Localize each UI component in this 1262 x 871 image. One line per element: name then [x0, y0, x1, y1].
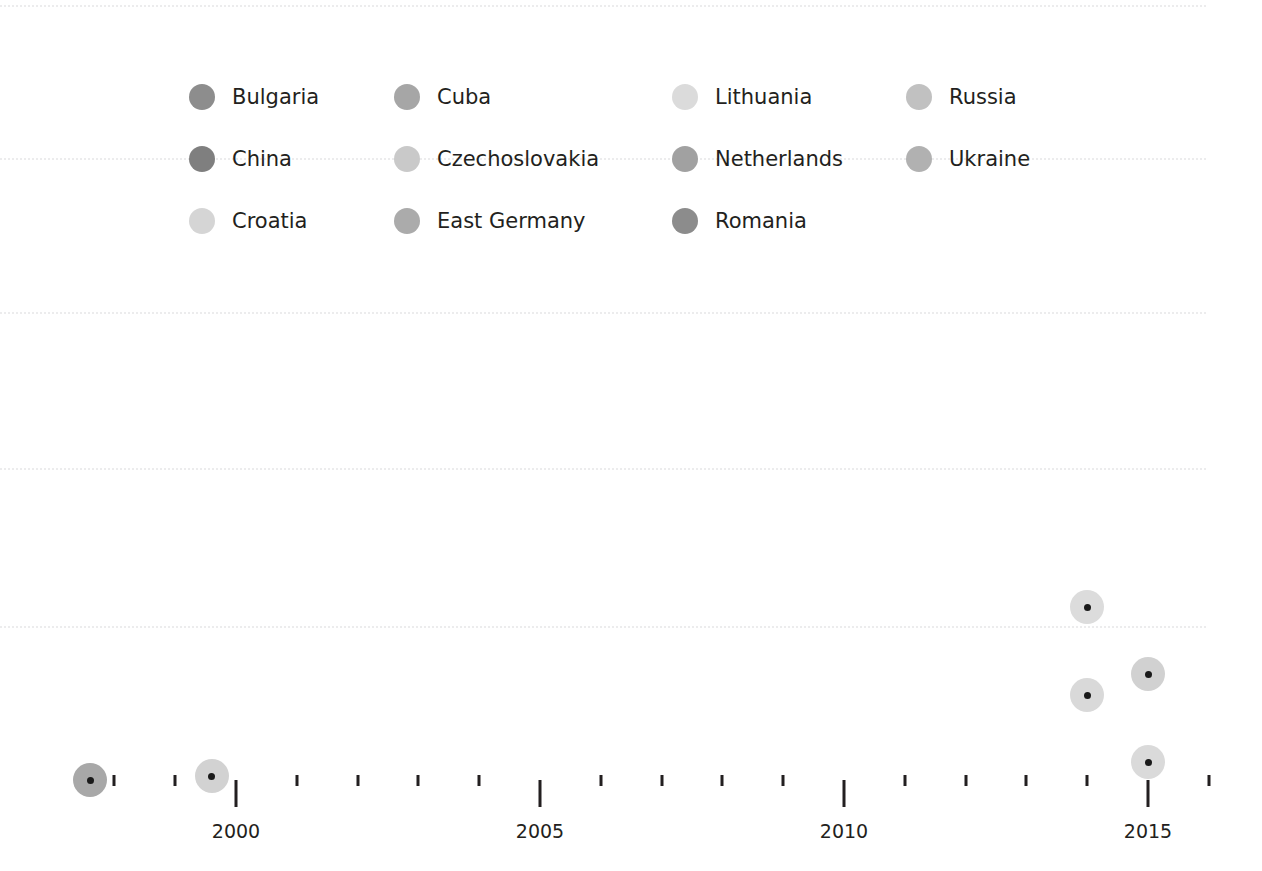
x-axis-minor-tick [478, 775, 481, 786]
x-axis-minor-tick [660, 775, 663, 786]
legend-item-label: Russia [949, 87, 1017, 108]
gridline-2 [0, 312, 1206, 314]
x-axis-tick-label: 2005 [516, 820, 564, 842]
legend-swatch-icon [394, 146, 420, 172]
x-axis-minor-tick [113, 775, 116, 786]
x-axis-minor-tick [721, 775, 724, 786]
data-point[interactable] [1070, 678, 1104, 712]
x-axis-major-tick [539, 780, 542, 807]
x-axis-tick-label: 2010 [820, 820, 868, 842]
data-point-center [1084, 692, 1091, 699]
chart-page: 55 2000200520102015 BulgariaChinaCroatia… [0, 0, 1262, 871]
x-axis-minor-tick [903, 775, 906, 786]
legend-swatch-icon [189, 208, 215, 234]
legend-item-croatia[interactable]: Croatia [189, 208, 308, 234]
legend-item-label: China [232, 149, 292, 170]
x-axis-minor-tick [174, 775, 177, 786]
x-axis-minor-tick [417, 775, 420, 786]
data-point-center [1145, 759, 1152, 766]
legend-swatch-icon [906, 84, 932, 110]
data-point[interactable] [1131, 745, 1165, 779]
x-axis-major-tick [843, 780, 846, 807]
x-axis-tick-label: 2000 [212, 820, 260, 842]
legend-item-label: Netherlands [715, 149, 843, 170]
x-axis-minor-tick [782, 775, 785, 786]
x-axis-minor-tick [1025, 775, 1028, 786]
legend-swatch-icon [189, 146, 215, 172]
data-point-center [208, 773, 215, 780]
legend-item-label: Lithuania [715, 87, 812, 108]
x-axis-minor-tick [1086, 775, 1089, 786]
legend-item-label: Bulgaria [232, 87, 319, 108]
x-axis-major-tick [235, 780, 238, 807]
legend-swatch-icon [672, 84, 698, 110]
legend-item-label: Ukraine [949, 149, 1030, 170]
legend-item-label: Romania [715, 211, 807, 232]
gridline-4 [0, 626, 1206, 628]
x-axis-minor-tick [599, 775, 602, 786]
legend-swatch-icon [394, 208, 420, 234]
legend-item-lithuania[interactable]: Lithuania [672, 84, 812, 110]
data-point-center [1145, 671, 1152, 678]
legend-item-czechoslovakia[interactable]: Czechoslovakia [394, 146, 599, 172]
legend-item-east-germany[interactable]: East Germany [394, 208, 586, 234]
x-axis-tick-label: 2015 [1124, 820, 1172, 842]
legend-item-russia[interactable]: Russia [906, 84, 1017, 110]
legend-item-romania[interactable]: Romania [672, 208, 807, 234]
legend-item-netherlands[interactable]: Netherlands [672, 146, 843, 172]
legend-item-china[interactable]: China [189, 146, 292, 172]
legend-item-cuba[interactable]: Cuba [394, 84, 491, 110]
legend-swatch-icon [394, 84, 420, 110]
legend-swatch-icon [672, 208, 698, 234]
data-point[interactable] [1070, 590, 1104, 624]
legend-item-bulgaria[interactable]: Bulgaria [189, 84, 319, 110]
plot-area: 2000200520102015 [0, 0, 1262, 871]
gridline-3 [0, 468, 1206, 470]
data-point[interactable] [1131, 657, 1165, 691]
legend-item-label: Croatia [232, 211, 308, 232]
x-axis-minor-tick [1207, 775, 1210, 786]
x-axis-major-tick [1147, 780, 1150, 807]
gridline-0 [0, 5, 1206, 7]
data-point-center [1084, 604, 1091, 611]
data-point-center [87, 777, 94, 784]
legend-swatch-icon [672, 146, 698, 172]
legend-item-label: East Germany [437, 211, 586, 232]
x-axis-minor-tick [964, 775, 967, 786]
legend-swatch-icon [906, 146, 932, 172]
x-axis-minor-tick [356, 775, 359, 786]
data-point[interactable] [195, 759, 229, 793]
x-axis-minor-tick [295, 775, 298, 786]
legend-swatch-icon [189, 84, 215, 110]
legend-item-label: Czechoslovakia [437, 149, 599, 170]
legend-item-ukraine[interactable]: Ukraine [906, 146, 1030, 172]
legend-item-label: Cuba [437, 87, 491, 108]
data-point[interactable] [73, 763, 107, 797]
